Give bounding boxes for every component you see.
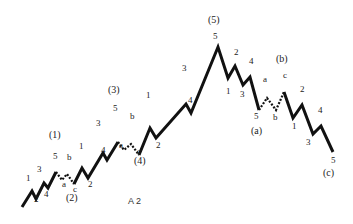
major-wave-label: (2) — [66, 192, 78, 204]
minor-wave-label: 3 — [37, 164, 42, 174]
diagram-caption: A 2 — [128, 196, 141, 206]
minor-wave-label: 2 — [34, 194, 39, 204]
major-wave-label: (5) — [208, 14, 220, 26]
major-wave-label: (a) — [251, 125, 262, 137]
minor-wave-label: 4 — [44, 189, 49, 199]
minor-wave-label: b — [273, 112, 278, 122]
minor-wave-label: 4 — [101, 145, 106, 155]
minor-wave-label: 2 — [300, 84, 305, 94]
minor-wave-label: b — [67, 152, 72, 162]
minor-wave-label: 5 — [213, 31, 218, 41]
minor-wave-label: 1 — [292, 121, 297, 131]
minor-wave-label: 3 — [306, 137, 311, 147]
minor-wave-label: 5 — [254, 111, 259, 121]
minor-wave-label: 5 — [113, 103, 118, 113]
minor-wave-label: 2 — [156, 140, 161, 150]
minor-wave-label: 2 — [88, 179, 93, 189]
minor-wave-label: 1 — [79, 141, 84, 151]
minor-wave-label: 3 — [182, 63, 187, 73]
major-wave-label: (3) — [108, 84, 120, 96]
minor-wave-label: 5 — [331, 155, 336, 165]
corrective-wave-dotted — [259, 92, 284, 110]
elliott-wave-diagram: 12345(1)abc(2)12345(3)abc(4)12345(5)1234… — [0, 0, 353, 224]
minor-wave-label: a — [119, 140, 123, 150]
minor-wave-label: 5 — [53, 151, 58, 161]
major-wave-label: (c) — [323, 167, 334, 179]
minor-wave-label: 4 — [318, 105, 323, 115]
minor-wave-label: a — [62, 179, 66, 189]
minor-wave-label: a — [263, 74, 267, 84]
minor-wave-label: c — [283, 70, 287, 80]
minor-wave-label: 4 — [249, 56, 254, 66]
minor-wave-label: 1 — [226, 86, 231, 96]
major-wave-label: (1) — [49, 129, 61, 141]
major-wave-label: (b) — [276, 53, 288, 65]
minor-wave-label: 1 — [26, 173, 31, 183]
major-wave-label: (4) — [134, 155, 146, 167]
minor-wave-label: 1 — [146, 90, 151, 100]
minor-wave-label: b — [130, 111, 135, 121]
minor-wave-label: 2 — [234, 47, 239, 57]
minor-wave-label: 4 — [188, 95, 193, 105]
impulse-wave-line — [139, 47, 259, 155]
minor-wave-label: 3 — [96, 118, 101, 128]
minor-wave-label: 3 — [240, 89, 245, 99]
